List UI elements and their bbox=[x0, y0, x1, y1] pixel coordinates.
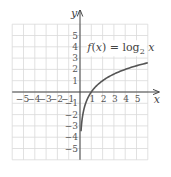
x-tick-label: 5 bbox=[135, 94, 141, 104]
x-tick-label: 2 bbox=[101, 94, 107, 104]
y-tick-label: −3 bbox=[65, 121, 79, 131]
function-label: f(x) = log2 x bbox=[86, 41, 155, 56]
y-tick-label: 3 bbox=[72, 53, 78, 63]
y-tick-label: −4 bbox=[65, 132, 79, 142]
log2-graph: −5−4−3−2−11234554321−1−2−3−4−5 x y f(x) … bbox=[0, 0, 171, 177]
x-tick-label: 1 bbox=[89, 94, 95, 104]
x-tick-label: 4 bbox=[123, 94, 129, 104]
y-tick-label: 1 bbox=[72, 76, 78, 86]
x-axis-label: x bbox=[154, 93, 161, 106]
y-tick-label: −2 bbox=[65, 110, 78, 120]
y-axis-label: y bbox=[70, 7, 78, 20]
y-tick-label: −1 bbox=[65, 98, 78, 108]
y-tick-label: 4 bbox=[72, 42, 78, 52]
y-tick-label: −5 bbox=[65, 144, 79, 154]
y-tick-label: 2 bbox=[72, 64, 78, 74]
y-tick-label: 5 bbox=[72, 31, 78, 41]
x-tick-label: 3 bbox=[112, 94, 118, 104]
